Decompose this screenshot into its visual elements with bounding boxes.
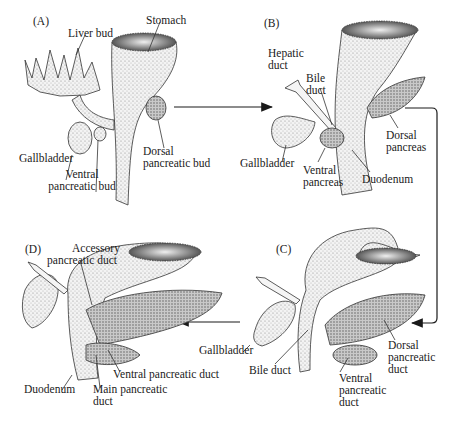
label-dorsal-pancreatic-duct: Dorsal pancreatic duct	[388, 339, 435, 375]
panel-label-c: (C)	[276, 243, 291, 255]
panel-label-b: (B)	[264, 17, 279, 29]
label-ventral-pancreatic-duct-c: Ventral pancreatic duct	[339, 372, 386, 408]
label-hepatic-duct: Hepatic duct	[268, 47, 304, 71]
label-ventral-pancreatic-duct-d: Ventral pancreatic duct	[113, 368, 219, 380]
label-liver-bud: Liver bud	[68, 27, 113, 39]
label-gallbladder-b: Gallbladder	[240, 157, 294, 169]
label-ventral-pancreas: Ventral pancreas	[303, 164, 343, 188]
panel-label-d: (D)	[25, 243, 41, 255]
label-duodenum-b: Duodenum	[362, 173, 413, 185]
label-ventral-pancreatic-bud: Ventral pancreatic bud	[46, 168, 118, 192]
label-main-pancreatic-duct: Main pancreatic duct	[93, 383, 167, 407]
label-duodenum-d: Duodenum	[24, 383, 75, 395]
label-stomach: Stomach	[146, 14, 186, 26]
label-accessory-pancreatic-duct: Accessory pancreatic duct	[46, 242, 118, 266]
label-gallbladder-c: Gallbladder	[199, 344, 253, 356]
label-bile-duct-b: Bile duct	[306, 72, 326, 96]
label-bile-duct-c: Bile duct	[249, 364, 291, 376]
label-dorsal-pancreas: Dorsal pancreas	[386, 129, 426, 153]
label-gallbladder-a: Gallbladder	[19, 152, 73, 164]
label-dorsal-pancreatic-bud: Dorsal pancreatic bud	[143, 145, 210, 169]
panel-label-a: (A)	[33, 15, 49, 27]
diagram-artwork	[0, 0, 455, 425]
